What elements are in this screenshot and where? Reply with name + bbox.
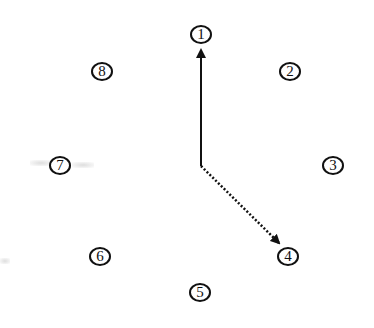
node-2: 2 — [279, 62, 301, 81]
node-label: 5 — [196, 285, 204, 300]
node-5: 5 — [189, 283, 211, 302]
node-1: 1 — [190, 25, 212, 44]
node-label: 7 — [56, 158, 64, 173]
node-label: 4 — [284, 249, 292, 264]
node-label: 1 — [197, 27, 205, 42]
node-6: 6 — [89, 247, 111, 266]
clock-diagram: 1 2 3 4 5 6 7 8 — [0, 0, 374, 328]
node-7: 7 — [49, 156, 71, 175]
node-4: 4 — [277, 247, 299, 266]
node-3: 3 — [322, 156, 344, 175]
node-label: 3 — [329, 158, 337, 173]
scan-noise — [72, 162, 94, 168]
node-label: 6 — [96, 249, 104, 264]
dotted-arrow-to-4 — [201, 166, 279, 243]
scan-noise — [0, 258, 10, 264]
node-8: 8 — [91, 62, 113, 81]
node-label: 2 — [286, 64, 294, 79]
node-label: 8 — [98, 64, 106, 79]
